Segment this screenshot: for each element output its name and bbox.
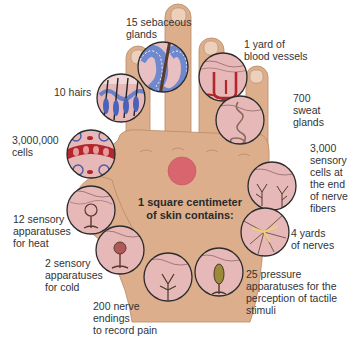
heat-receptor-icon	[66, 186, 116, 234]
skin-diagram: 15 sebaceous glands 1 yard of blood vess…	[0, 0, 357, 342]
label-heat: 12 sensory apparatuses for heat	[13, 213, 71, 249]
label-sebaceous: 15 sebaceous glands	[126, 16, 191, 40]
label-blood-vessels: 1 yard of blood vessels	[244, 38, 308, 62]
label-hairs: 10 hairs	[54, 86, 91, 98]
label-nerves: 4 yards of nerves	[291, 227, 334, 251]
center-title: 1 square centimeter of skin contains:	[125, 196, 255, 222]
label-sensory-cells: 3,000 sensory cells at the end of nerve …	[310, 142, 348, 214]
label-pressure: 25 pressure apparatuses for the percepti…	[246, 268, 337, 316]
highlight-spot	[168, 157, 196, 185]
skin-cells-icon	[66, 130, 116, 178]
label-sweat-glands: 700 sweat glands	[293, 92, 324, 128]
nerve-endings-icon	[248, 162, 298, 210]
blood-vessels-icon	[198, 53, 248, 101]
label-pain: 200 nerve endings to record pain	[93, 300, 157, 336]
label-cells: 3,000,000 cells	[12, 134, 59, 158]
label-cold: 2 sensory apparatuses for cold	[45, 257, 103, 293]
